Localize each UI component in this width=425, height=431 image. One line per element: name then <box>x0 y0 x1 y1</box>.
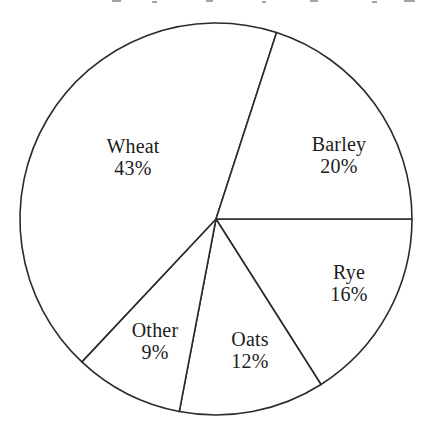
pie-label-other: Other 9% <box>132 319 179 364</box>
pie-label-wheat-value: 43% <box>106 157 159 179</box>
pie-label-wheat-name: Wheat <box>106 135 159 157</box>
pie-label-other-name: Other <box>132 319 179 341</box>
pie-chart-figure: Wheat 43% Barley 20% Rye 16% Oats 12% Ot… <box>0 0 425 431</box>
pie-label-oats-name: Oats <box>231 328 268 350</box>
pie-label-barley: Barley 20% <box>312 133 367 178</box>
pie-chart-svg <box>0 0 425 431</box>
pie-label-oats-value: 12% <box>231 350 268 372</box>
pie-label-barley-name: Barley <box>312 133 367 155</box>
scan-artifact <box>0 0 425 4</box>
pie-label-wheat: Wheat 43% <box>106 135 159 180</box>
pie-label-other-value: 9% <box>132 341 179 363</box>
pie-label-rye-value: 16% <box>330 283 367 305</box>
pie-label-rye: Rye 16% <box>330 261 367 306</box>
pie-label-oats: Oats 12% <box>231 328 268 373</box>
pie-label-barley-value: 20% <box>312 155 367 177</box>
pie-slices <box>20 23 412 415</box>
pie-label-rye-name: Rye <box>330 261 367 283</box>
